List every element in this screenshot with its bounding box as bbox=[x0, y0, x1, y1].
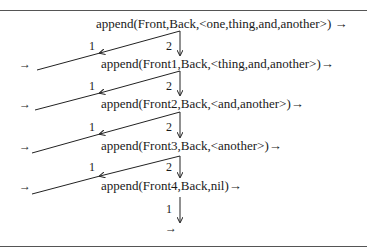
left-arrow-icon: → bbox=[19, 140, 31, 152]
branch-label: 1 bbox=[166, 203, 172, 215]
branch-label: 1 bbox=[89, 80, 95, 92]
left-arrow-icon: → bbox=[19, 58, 31, 70]
goal-4: append(Front4,Back,nil)→ bbox=[101, 179, 242, 193]
left-arrow-icon: → bbox=[19, 180, 31, 192]
branch-label: 1 bbox=[89, 121, 95, 133]
branch-1-tail bbox=[37, 53, 100, 70]
branch-label: 1 bbox=[89, 40, 95, 52]
goal-3: append(Front3,Back,<another>)→ bbox=[101, 139, 282, 153]
branch-label: 2 bbox=[166, 80, 172, 92]
goal-0: append(Front,Back,<one,thing,and,another… bbox=[96, 17, 348, 31]
proof-tree-lines bbox=[0, 0, 367, 250]
goal-2: append(Front2,Back,<and,another>)→ bbox=[101, 97, 304, 111]
branch-label: 1 bbox=[89, 161, 95, 173]
final-arrow-icon: → bbox=[165, 222, 177, 234]
goal-1: append(Front1,Back,<thing,and,another>)→ bbox=[101, 57, 334, 71]
left-arrow-icon: → bbox=[19, 98, 31, 110]
branch-label: 2 bbox=[166, 161, 172, 173]
branch-label: 2 bbox=[166, 121, 172, 133]
branch-label: 2 bbox=[166, 40, 172, 52]
